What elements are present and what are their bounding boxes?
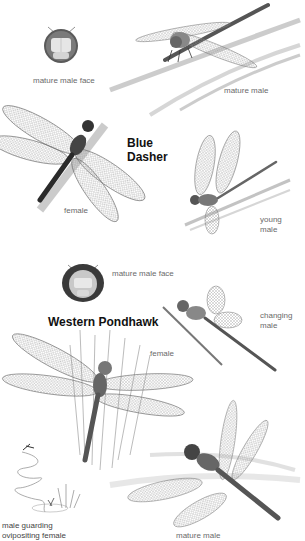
blue-dasher-young-male-label: young male [260,215,282,235]
label-line: male guarding [2,521,66,531]
western-pondhawk-changing-male-label: changing male [260,311,292,331]
blue-dasher-mature-male-label: mature male [224,86,268,96]
blue-dasher-face-label: mature male face [33,76,95,86]
guarding-flight-path-illustration [15,444,80,512]
western-pondhawk-guarding-label: male guarding ovipositing female [2,521,66,541]
species-name-line: Blue [127,136,168,150]
western-pondhawk-mature-male-illustration [110,399,300,532]
label-line: young [260,215,282,225]
blue-dasher-female-label: female [64,206,88,216]
western-pondhawk-species-name: Western Pondhawk [48,315,158,329]
label-line: male [260,321,292,331]
species-name-line: Dasher [127,150,168,164]
blue-dasher-face-illustration [44,27,78,63]
blue-dasher-species-name: Blue Dasher [127,136,168,164]
label-line: male [260,225,282,235]
western-pondhawk-changing-male-illustration [163,286,275,370]
blue-dasher-mature-male-illustration [110,5,300,115]
label-line: changing [260,311,292,321]
western-pondhawk-face-label: mature male face [112,269,174,279]
western-pondhawk-face-illustration [62,264,104,302]
western-pondhawk-mature-male-label: mature male [176,531,220,541]
label-line: ovipositing female [2,531,66,541]
western-pondhawk-female-label: female [150,349,174,359]
